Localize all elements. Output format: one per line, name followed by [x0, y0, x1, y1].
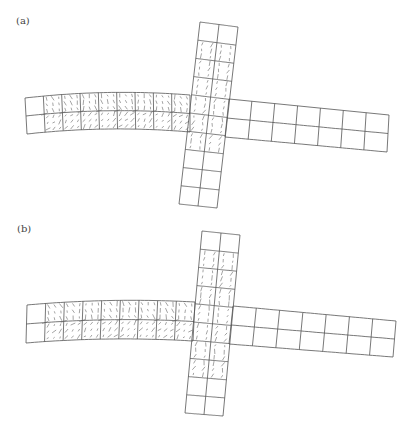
panel-b: [26, 231, 396, 416]
left-beam-mesh: [26, 300, 195, 343]
right-beam-mesh: [229, 306, 396, 357]
panel-label-a: (a): [16, 15, 30, 26]
vertical-column-mesh: [185, 231, 240, 416]
mesh-deformation-diagram: [0, 0, 414, 434]
right-beam-mesh: [225, 99, 389, 152]
panel-label-b: (b): [17, 223, 31, 234]
figure: (a) (b): [0, 0, 414, 434]
vertical-column-mesh: [179, 22, 238, 208]
left-beam-mesh: [25, 92, 190, 134]
panel-a: [25, 22, 389, 208]
